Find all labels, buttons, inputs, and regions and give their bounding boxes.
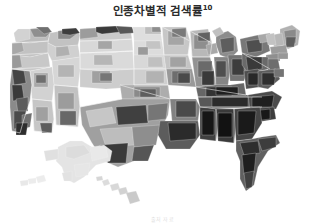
chart-title-superscript: 10	[203, 4, 213, 12]
figure-container: 인종차별적 검색률10	[0, 0, 325, 224]
us-choropleth-map	[0, 15, 325, 210]
hawaii-inset	[96, 176, 140, 204]
map-svg	[0, 15, 325, 210]
figure-caption: 출처 자료	[0, 215, 325, 222]
